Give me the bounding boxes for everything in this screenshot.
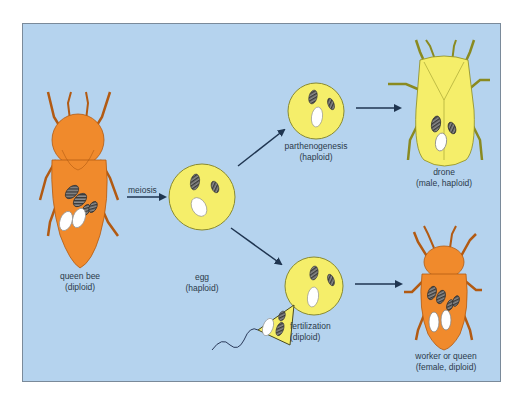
egg-label-line2: (haploid) xyxy=(177,283,227,294)
drone-label: drone (male, haploid) xyxy=(402,167,486,188)
diagram-artwork xyxy=(0,0,520,393)
queen-bee-icon xyxy=(40,92,118,268)
worker-bee-icon xyxy=(404,226,482,350)
egg-label-line1: egg xyxy=(177,272,227,283)
fertilization-label: fertilization (diploid) xyxy=(290,321,346,342)
worker-label-line1: worker or queen xyxy=(404,351,488,362)
drone-label-line2: (male, haploid) xyxy=(402,178,486,189)
drone-bee-icon xyxy=(388,40,490,166)
queen-label-line1: queen bee xyxy=(52,271,108,282)
parthenogenesis-label-line1: parthenogenesis xyxy=(280,141,352,152)
flow-arrows xyxy=(127,108,401,284)
parthenogenesis-label-line2: (haploid) xyxy=(280,152,352,163)
arrow-egg-to-fertilization xyxy=(231,228,281,264)
fertilization-label-line2: (diploid) xyxy=(290,332,346,343)
sperm-cell-icon xyxy=(212,305,294,350)
fertilization-label-line1: fertilization xyxy=(290,321,346,332)
parthenogenesis-cell-icon xyxy=(288,83,344,139)
egg-cell-icon xyxy=(169,164,235,230)
parthenogenesis-label: parthenogenesis (haploid) xyxy=(280,141,352,162)
worker-label: worker or queen (female, diploid) xyxy=(404,351,488,372)
edge-label-meiosis: meiosis xyxy=(128,185,157,196)
arrow-egg-to-parthenogenesis xyxy=(238,130,284,166)
egg-label: egg (haploid) xyxy=(177,272,227,293)
worker-label-line2: (female, diploid) xyxy=(404,362,488,373)
queen-label: queen bee (diploid) xyxy=(52,271,108,292)
queen-label-line2: (diploid) xyxy=(52,282,108,293)
drone-label-line1: drone xyxy=(402,167,486,178)
